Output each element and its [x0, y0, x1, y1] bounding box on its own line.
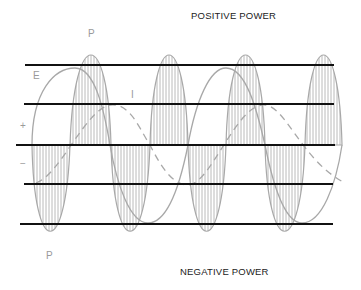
power-waveform-diagram: [0, 0, 361, 290]
power-lobe-negative: [265, 145, 305, 231]
power-lobe-positive: [150, 55, 188, 145]
power-lobe-negative: [32, 145, 70, 231]
power-lobe-positive: [305, 55, 342, 145]
power-curve: [32, 55, 342, 231]
power-lobe-negative: [111, 145, 150, 231]
power-lobe-negative: [188, 145, 226, 231]
power-lobe-positive: [226, 55, 265, 145]
